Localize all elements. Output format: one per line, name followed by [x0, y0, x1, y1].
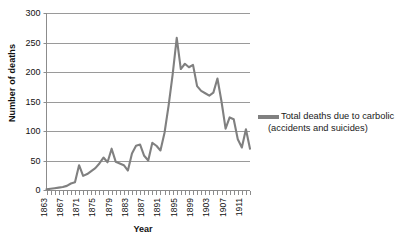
y-axis-tick-label: 0: [35, 185, 40, 195]
y-axis-tick-label: 100: [25, 126, 40, 136]
x-axis-tick-label: 1903: [201, 198, 211, 217]
legend-line-swatch: [258, 115, 279, 119]
x-axis-tick-label: 1907: [218, 198, 228, 217]
gridlines: [44, 14, 251, 191]
x-axis-tick-label: 1867: [55, 198, 65, 217]
legend-label-line2: (accidents and suicides): [268, 122, 410, 134]
y-axis-tick-label: 200: [25, 67, 40, 77]
y-axis-tick-label: 250: [25, 38, 40, 48]
chart-container: Deaths due to carbolic acid Number of de…: [0, 0, 411, 243]
x-axis-ticks: [48, 191, 251, 195]
x-axis-tick-label: 1899: [185, 198, 195, 217]
x-axis-tick-label: 1911: [234, 198, 244, 217]
x-axis-tick-label: 1891: [152, 198, 162, 217]
x-axis-tick-label: 1895: [169, 198, 179, 217]
x-axis-tick-label: 1879: [104, 198, 114, 217]
legend-item: Total deaths due to carbolic: [258, 110, 410, 122]
y-axis-tick-label: 300: [25, 8, 40, 18]
x-axis-tick-label: 1887: [136, 198, 146, 217]
x-axis-tick-label: 1863: [39, 198, 49, 217]
x-axis-tick-label: 1883: [120, 198, 130, 217]
x-axis-tick-label: 1875: [87, 198, 97, 217]
legend-label-line1: Total deaths due to carbolic: [281, 110, 394, 122]
y-axis-tick-label: 50: [30, 156, 40, 166]
y-axis-tick-label: 150: [25, 97, 40, 107]
y-axis-tick-labels: 300250200150100500: [25, 8, 40, 195]
x-axis-tick-labels: 1863186718711875187918831887189118951899…: [39, 198, 244, 217]
data-series-line: [47, 38, 251, 190]
legend: Total deaths due to carbolic (accidents …: [258, 110, 410, 134]
x-axis-tick-label: 1871: [71, 198, 81, 217]
